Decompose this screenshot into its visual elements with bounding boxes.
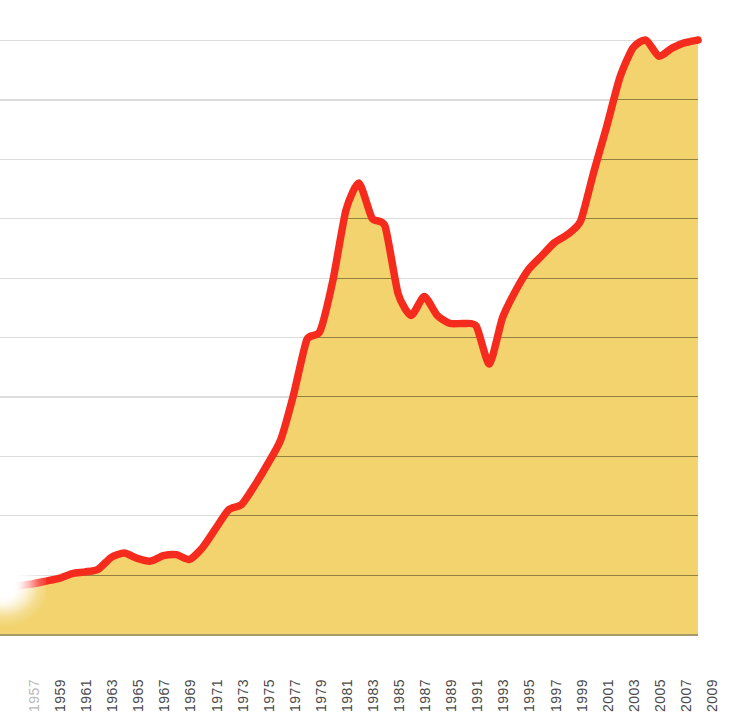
x-axis-tick-label: 1975 (261, 679, 277, 712)
x-axis-tick-label: 1963 (104, 679, 120, 712)
x-axis-tick-label: 1987 (417, 679, 433, 712)
x-axis-tick-label: 1993 (495, 679, 511, 712)
x-axis-tick-label: 1969 (182, 679, 198, 712)
x-axis-tick-label: 1961 (78, 679, 94, 712)
x-axis-tick-label: 1971 (209, 679, 225, 712)
x-axis-tick-label: 1999 (574, 679, 590, 712)
x-axis-tick-label: 1981 (339, 679, 355, 712)
x-axis-tick-label: 1957 (26, 679, 42, 712)
chart-plot-area (0, 0, 738, 719)
x-axis-tick-label: 2007 (678, 679, 694, 712)
x-axis-tick-label: 1995 (521, 679, 537, 712)
x-axis-tick-label: 2001 (600, 679, 616, 712)
x-axis-tick-label: 2009 (704, 679, 720, 712)
x-axis-tick-label: 1967 (156, 679, 172, 712)
x-axis-tick-label: 1985 (391, 679, 407, 712)
area-chart: 1957195919611963196519671969197119731975… (0, 0, 738, 719)
x-axis-tick-label: 1979 (313, 679, 329, 712)
x-axis-tick-label: 1991 (469, 679, 485, 712)
x-axis-tick-label: 2003 (626, 679, 642, 712)
x-axis-tick-label: 1965 (130, 679, 146, 712)
x-axis-tick-label: 1959 (52, 679, 68, 712)
x-axis-tick-label: 1989 (443, 679, 459, 712)
x-axis-tick-label: 1973 (235, 679, 251, 712)
x-axis-tick-label: 1997 (548, 679, 564, 712)
x-axis-tick-label: 2005 (652, 679, 668, 712)
x-axis-tick-label: 1977 (287, 679, 303, 712)
x-axis-tick-label: 1983 (365, 679, 381, 712)
